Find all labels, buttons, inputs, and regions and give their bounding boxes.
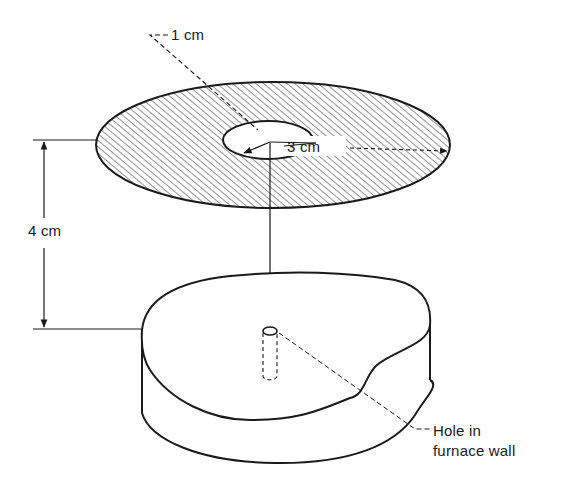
outer-radius-label: 3 cm [287, 139, 320, 154]
annular-disc [96, 82, 450, 208]
distance-label: 4 cm [28, 223, 61, 238]
hole-label-line2: furnace wall [433, 443, 515, 458]
hole-opening [263, 327, 277, 335]
furnace-wall-top-surface [142, 273, 431, 420]
diagram-canvas [0, 0, 561, 485]
inner-radius-label: 1 cm [171, 27, 204, 42]
furnace-wall [142, 273, 434, 464]
hole-label-line1: Hole in [433, 423, 481, 438]
